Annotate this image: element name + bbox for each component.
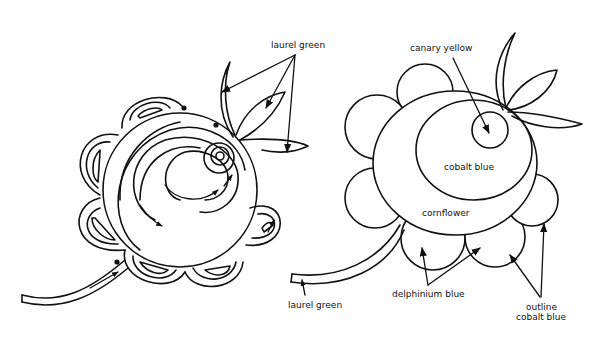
label-cornflower: cornflower [422, 208, 470, 218]
label-laurel-green-leaves: laurel green [271, 40, 325, 50]
right-flower: canary yellow cobalt blue cornflower lau… [288, 33, 582, 322]
left-stem [22, 259, 128, 305]
right-stem [291, 225, 404, 284]
left-petals [79, 97, 280, 286]
diagram-canvas: laurel green [0, 0, 607, 342]
left-flower-body [103, 113, 257, 267]
label-canary-yellow: canary yellow [410, 43, 472, 53]
left-flower: laurel green [22, 40, 325, 305]
label-outline: outline [526, 302, 557, 312]
label-laurel-green-stem: laurel green [288, 300, 342, 310]
label-outline-cobalt-blue: cobalt blue [516, 312, 566, 322]
label-cobalt-blue: cobalt blue [444, 162, 494, 172]
left-leaves [221, 62, 308, 152]
label-delphinium-blue: delphinium blue [392, 289, 465, 299]
